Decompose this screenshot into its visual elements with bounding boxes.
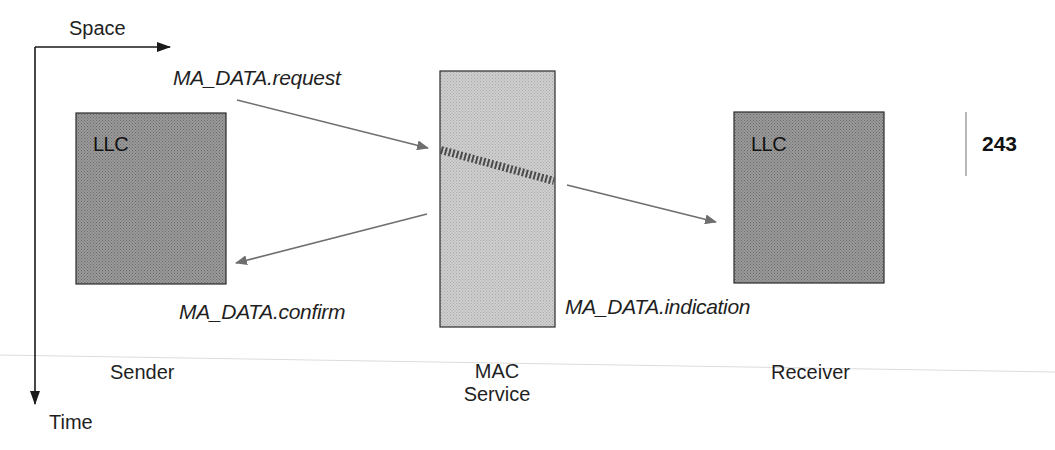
indication-primitive-label: MA_DATA.indication (565, 295, 750, 319)
space-axis-label: Space (69, 17, 126, 40)
page-number: 243 (982, 132, 1017, 156)
time-axis-label: Time (49, 411, 93, 434)
mac-caption: MAC Service (447, 360, 547, 406)
sender-caption: Sender (110, 361, 175, 384)
confirm-primitive-label: MA_DATA.confirm (179, 300, 345, 324)
sender-llc-label: LLC (93, 133, 128, 156)
mac-service-box (440, 71, 555, 327)
mac-caption-line1: MAC (447, 360, 547, 383)
receiver-llc-label: LLC (751, 133, 786, 156)
mac-caption-line2: Service (447, 383, 547, 406)
request-arrow (237, 100, 428, 148)
indication-arrow (567, 185, 716, 222)
receiver-caption: Receiver (771, 361, 850, 384)
confirm-arrow (236, 214, 427, 263)
request-primitive-label: MA_DATA.request (173, 66, 340, 90)
